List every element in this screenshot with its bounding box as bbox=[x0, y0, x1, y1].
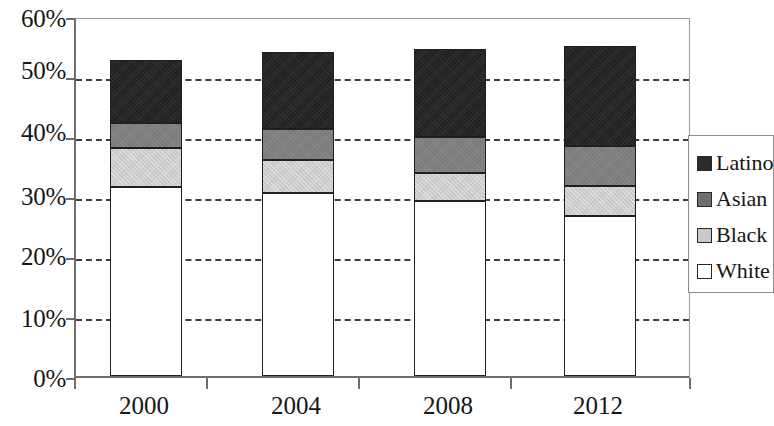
x-axis-label-2000: 2000 bbox=[84, 392, 204, 420]
x-axis-label-2008: 2008 bbox=[388, 392, 508, 420]
legend-item-label: Asian bbox=[716, 188, 767, 210]
bar-segment-asian[interactable] bbox=[110, 123, 182, 148]
bar-segment-asian[interactable] bbox=[564, 146, 636, 186]
x-axis-tick-mark bbox=[206, 378, 208, 389]
legend-swatch-icon bbox=[697, 156, 712, 171]
y-axis-tick-label: 30% bbox=[4, 184, 66, 209]
legend-swatch-icon bbox=[697, 264, 712, 279]
x-axis-label-2004: 2004 bbox=[236, 392, 356, 420]
bar-2012[interactable] bbox=[564, 46, 636, 376]
legend-item-label: Black bbox=[716, 224, 767, 246]
y-axis-tick-label: 50% bbox=[4, 58, 66, 83]
x-axis-tick-mark bbox=[689, 378, 691, 389]
bar-segment-black[interactable] bbox=[262, 160, 334, 193]
bar-segment-white[interactable] bbox=[262, 193, 334, 376]
bar-2004[interactable] bbox=[262, 52, 334, 376]
bar-segment-latino[interactable] bbox=[414, 49, 486, 137]
bar-segment-black[interactable] bbox=[564, 186, 636, 216]
bar-2000[interactable] bbox=[110, 60, 182, 376]
legend-item-latino[interactable]: Latino bbox=[697, 145, 773, 181]
legend: Latino Asian Black White bbox=[688, 135, 774, 293]
legend-swatch-icon bbox=[697, 228, 712, 243]
bar-segment-white[interactable] bbox=[414, 201, 486, 376]
legend-item-black[interactable]: Black bbox=[697, 217, 773, 253]
x-axis-label-2012: 2012 bbox=[538, 392, 658, 420]
y-axis-tick-label: 0% bbox=[4, 366, 66, 391]
y-axis-labels: 60% 50% 40% 30% 20% 10% 0% bbox=[0, 0, 66, 426]
bar-segment-asian[interactable] bbox=[262, 129, 334, 160]
x-axis-tick-mark bbox=[358, 378, 360, 389]
legend-item-asian[interactable]: Asian bbox=[697, 181, 773, 217]
legend-swatch-icon bbox=[697, 192, 712, 207]
legend-item-label: White bbox=[716, 260, 770, 282]
bar-segment-white[interactable] bbox=[564, 216, 636, 376]
bar-segment-black[interactable] bbox=[110, 148, 182, 187]
bar-segment-white[interactable] bbox=[110, 187, 182, 376]
y-axis-tick-label: 60% bbox=[4, 6, 66, 31]
bar-2008[interactable] bbox=[414, 49, 486, 376]
bar-segment-black[interactable] bbox=[414, 173, 486, 201]
x-axis-tick-mark bbox=[510, 378, 512, 389]
plot-area bbox=[74, 18, 690, 378]
y-axis-tick-label: 10% bbox=[4, 306, 66, 331]
bar-segment-asian[interactable] bbox=[414, 137, 486, 173]
y-axis-tick-label: 40% bbox=[4, 120, 66, 145]
legend-item-white[interactable]: White bbox=[697, 253, 773, 289]
bar-segment-latino[interactable] bbox=[110, 60, 182, 123]
bar-segment-latino[interactable] bbox=[564, 46, 636, 146]
y-axis-tick-label: 20% bbox=[4, 244, 66, 269]
legend-item-label: Latino bbox=[716, 152, 773, 174]
bar-segment-latino[interactable] bbox=[262, 52, 334, 129]
x-axis-tick-mark bbox=[74, 378, 76, 389]
